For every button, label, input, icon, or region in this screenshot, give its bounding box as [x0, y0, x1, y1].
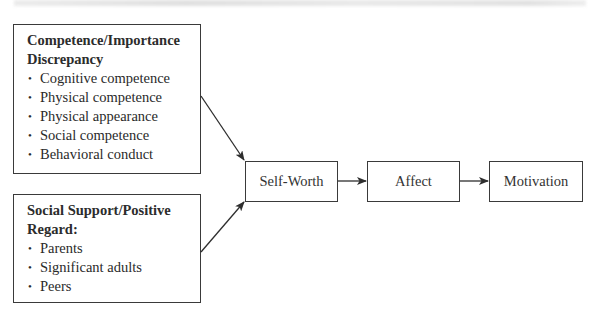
arrow-support-to-self-worth — [201, 202, 244, 252]
arrow-competence-to-self-worth — [201, 96, 244, 160]
connector-arrows — [0, 0, 597, 320]
